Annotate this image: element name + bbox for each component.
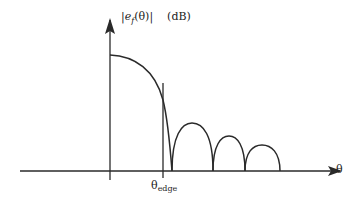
y-label-arg: (θ)| — [134, 10, 153, 23]
edge-label-main: θ — [151, 179, 158, 192]
y-label-unit: (dB) — [167, 10, 191, 23]
side-lobe-2 — [213, 136, 245, 171]
x-axis-label: θ — [336, 163, 343, 176]
side-lobe-1 — [172, 123, 213, 171]
y-label-main: |e — [121, 10, 131, 23]
pattern-diagram — [0, 0, 356, 206]
side-lobe-3 — [245, 145, 280, 171]
edge-label: θedge — [151, 179, 177, 193]
y-axis-label: |ef(θ)|(dB) — [121, 10, 191, 25]
edge-label-sub: edge — [158, 184, 178, 193]
